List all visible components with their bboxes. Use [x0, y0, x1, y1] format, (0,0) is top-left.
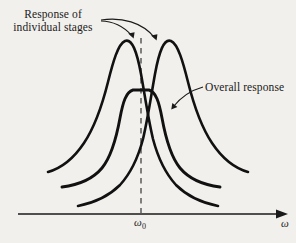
- overall-annotation-label: Overall response: [205, 81, 284, 94]
- stages-annotation-line-1: Response of: [24, 8, 82, 20]
- omega-glyph: ω: [134, 216, 142, 228]
- x-axis-tick-label-omega-zero: ω0: [134, 216, 146, 233]
- omega-subscript: 0: [142, 222, 146, 231]
- stages-annotation-label: Response of individual stages: [5, 8, 101, 34]
- stages-annotation-line-2: individual stages: [13, 21, 92, 33]
- stagger-tuned-response-figure: [0, 0, 296, 243]
- x-axis-label-omega: ω: [281, 217, 289, 230]
- figure-background: [0, 0, 296, 243]
